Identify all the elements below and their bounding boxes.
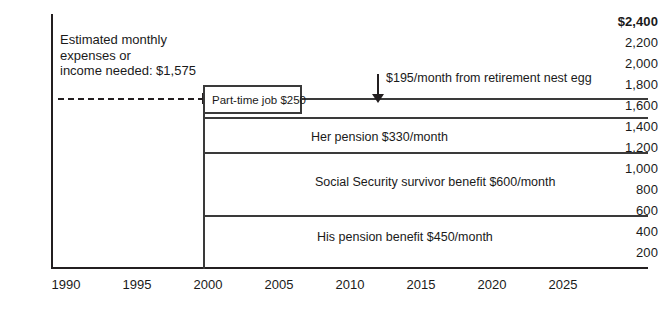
x-tick-label-2000: 2000 (178, 278, 238, 291)
y-tick-label-1800: 1,800 (612, 78, 658, 91)
x-axis-line (51, 267, 648, 269)
nest-egg-arrowhead-icon (372, 94, 384, 103)
band-top-her-pension (203, 117, 648, 119)
x-tick-label-2025: 2025 (533, 278, 593, 291)
retirement-income-chart: $2,400 2,200 2,000 1,800 1,600 1,400 1,2… (0, 0, 658, 316)
part-time-job-label: Part-time job $250 (212, 94, 306, 106)
y-tick-label-400: 400 (612, 225, 658, 238)
y-tick-label-1000: 1,000 (612, 162, 658, 175)
y-tick-label-2200: 2,200 (612, 36, 658, 49)
x-tick-label-1995: 1995 (107, 278, 167, 291)
y-axis-line (51, 14, 53, 269)
x-tick-label-1990: 1990 (36, 278, 96, 291)
x-tick-label-2015: 2015 (391, 278, 451, 291)
y-tick-label-200: 200 (612, 246, 658, 259)
y-tick-label-2400: $2,400 (612, 15, 658, 28)
target-income-dashed-line (58, 98, 204, 100)
her-pension-label: Her pension $330/month (311, 131, 448, 144)
y-tick-label-2000: 2,000 (612, 57, 658, 70)
nest-egg-callout-label: $195/month from retirement nest egg (386, 72, 592, 85)
x-tick-label-2010: 2010 (320, 278, 380, 291)
band-top-his-pension (203, 215, 648, 217)
nest-egg-arrow-icon (377, 74, 379, 96)
y-tick-label-800: 800 (612, 183, 658, 196)
social-security-label: Social Security survivor benefit $600/mo… (315, 176, 555, 189)
band-top-nest-egg (302, 98, 648, 100)
band-top-social-security (203, 152, 648, 154)
x-tick-label-2020: 2020 (462, 278, 522, 291)
x-tick-label-2005: 2005 (249, 278, 309, 291)
estimated-expenses-note: Estimated monthly expenses or income nee… (60, 32, 196, 79)
y-tick-label-1400: 1,400 (612, 120, 658, 133)
his-pension-label: His pension benefit $450/month (317, 231, 493, 244)
y-tick-label-1600: 1,600 (612, 99, 658, 112)
